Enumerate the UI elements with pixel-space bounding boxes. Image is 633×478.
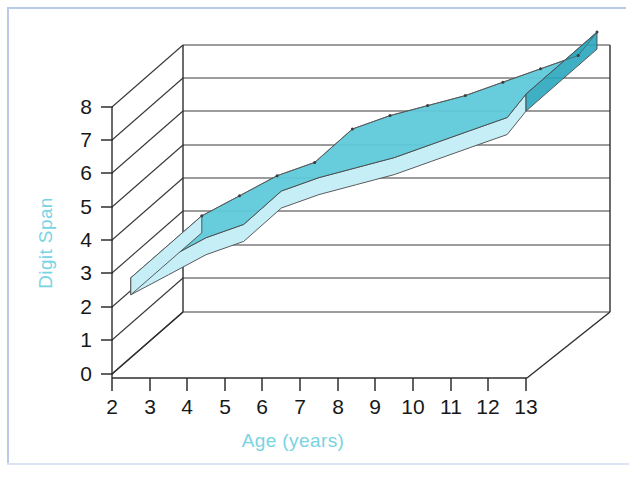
left-wall-depth-lines [112, 45, 183, 374]
y-axis: 8 7 6 5 4 3 2 1 0 [80, 95, 113, 385]
data-point-marker [539, 67, 542, 70]
floor-left-diagonal [112, 312, 183, 374]
y-tick-label-7: 7 [80, 128, 92, 151]
x-axis-title: Age (years) [242, 430, 345, 451]
x-tick-label-5: 5 [219, 395, 231, 418]
x-tick-label-9: 9 [369, 395, 381, 418]
floor-right-diagonal [527, 312, 610, 378]
data-point-marker [238, 194, 241, 197]
x-tick-label-10: 10 [401, 395, 424, 418]
y-tick-label-2: 2 [80, 295, 92, 318]
y-tick-label-8: 8 [80, 95, 92, 118]
data-point-marker [351, 128, 354, 131]
y-tick-label-6: 6 [80, 161, 92, 184]
x-axis-ticks [112, 378, 526, 391]
data-point-marker [276, 174, 279, 177]
data-ribbon-3d [131, 31, 599, 295]
ribbon-top-surface [131, 32, 597, 278]
y-axis-title: Digit Span [35, 197, 56, 289]
y-axis-ticks [101, 107, 113, 374]
y-tick-label-0: 0 [80, 362, 92, 385]
data-point-marker [596, 31, 599, 34]
data-point-marker [426, 104, 429, 107]
figure-container: 8 7 6 5 4 3 2 1 0 Digit Span [0, 0, 633, 478]
data-point-marker [200, 214, 203, 217]
x-tick-label-7: 7 [294, 395, 306, 418]
y-tick-label-4: 4 [80, 228, 92, 251]
x-tick-label-2: 2 [106, 395, 118, 418]
y-tick-label-1: 1 [80, 328, 92, 351]
y-tick-label-5: 5 [80, 195, 92, 218]
data-point-marker [313, 161, 316, 164]
x-tick-label-13: 13 [514, 395, 537, 418]
data-point-marker [389, 114, 392, 117]
x-tick-label-3: 3 [144, 395, 156, 418]
data-point-marker [577, 54, 580, 57]
x-tick-label-12: 12 [476, 395, 499, 418]
x-tick-label-6: 6 [256, 395, 268, 418]
data-point-marker [464, 94, 467, 97]
digit-span-chart: 8 7 6 5 4 3 2 1 0 Digit Span [0, 0, 633, 478]
data-point-marker [501, 81, 504, 84]
y-tick-label-3: 3 [80, 261, 92, 284]
x-axis: 2 3 4 5 6 7 8 9 10 11 12 13 [106, 378, 538, 418]
x-tick-label-8: 8 [332, 395, 344, 418]
x-tick-label-11: 11 [440, 395, 462, 418]
x-tick-label-4: 4 [181, 395, 193, 418]
